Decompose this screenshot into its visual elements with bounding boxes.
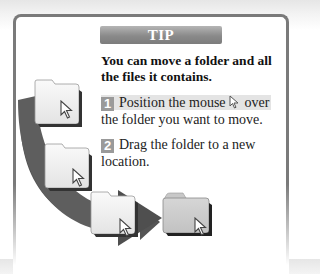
folder-icon-destination	[163, 193, 212, 236]
drag-folder-illustration	[0, 0, 303, 259]
folder-icon-dragging	[91, 192, 138, 237]
folder-icon-start	[35, 80, 82, 127]
folder-icon-middle	[45, 144, 92, 191]
